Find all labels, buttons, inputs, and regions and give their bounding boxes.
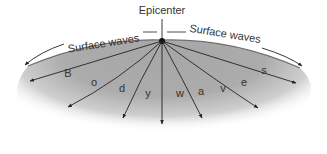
epicenter-label: Epicenter <box>139 4 186 16</box>
body-wave-letter: a <box>198 85 205 97</box>
earth-ground <box>17 40 311 150</box>
body-wave-letter: y <box>145 87 151 99</box>
body-wave-letter: s <box>261 64 267 76</box>
body-wave-letter: B <box>64 67 71 79</box>
seismic-wave-diagram: Epicenter Surface waves Surface waves B … <box>0 0 327 154</box>
body-wave-letter: e <box>241 76 247 88</box>
body-wave-letter: o <box>91 76 97 88</box>
body-wave-letter: w <box>175 87 184 99</box>
body-wave-letter: v <box>220 82 226 94</box>
body-wave-letter: d <box>119 82 125 94</box>
